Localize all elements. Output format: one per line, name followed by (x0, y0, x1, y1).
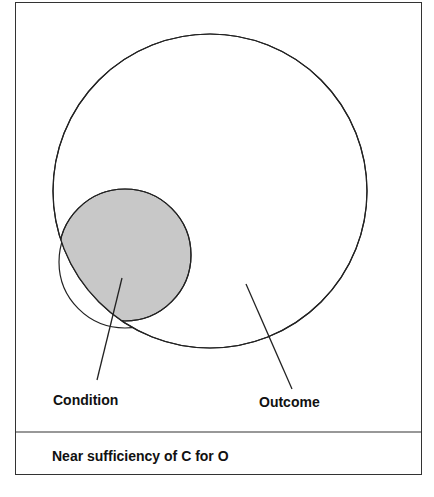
condition-label: Condition (53, 392, 118, 408)
outcome-label: Outcome (259, 394, 320, 410)
condition-circle-shaded (59, 189, 191, 321)
diagram-caption: Near sufficiency of C for O (52, 448, 229, 464)
venn-diagram (0, 0, 434, 497)
